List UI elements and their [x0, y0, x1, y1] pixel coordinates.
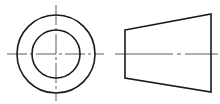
side-view	[115, 14, 218, 92]
end-view	[7, 5, 104, 101]
technical-drawing	[0, 0, 220, 104]
frustum-outline	[125, 14, 211, 92]
drawing-canvas	[0, 0, 220, 104]
